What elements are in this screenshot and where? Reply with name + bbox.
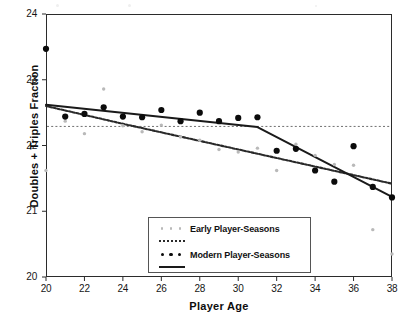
legend-line-early <box>156 235 305 248</box>
y-tick-label: 24 <box>15 8 37 19</box>
y-tick-label: 20 <box>15 271 37 282</box>
y-axis-title: Doubles + Triples Fraction <box>28 36 40 236</box>
x-tick-label: 28 <box>189 283 211 294</box>
legend-label-modern: Modern Player-Seasons <box>190 250 290 260</box>
legend-entry-modern: Modern Player-Seasons <box>156 248 305 261</box>
legend-entry-early: Early Player-Seasons <box>156 222 305 235</box>
legend-marker-early <box>156 223 190 234</box>
legend-label-early: Early Player-Seasons <box>190 224 280 234</box>
x-tick-label: 30 <box>227 283 249 294</box>
legend-marker-modern <box>156 249 190 260</box>
x-tick-label: 38 <box>381 283 403 294</box>
x-tick-label: 32 <box>266 283 288 294</box>
legend-line-sample-early <box>156 236 190 247</box>
x-tick-label: 36 <box>343 283 365 294</box>
chart-figure: 2021222324 20222426283032343638 Doubles … <box>0 0 407 323</box>
x-axis-title: Player Age <box>46 300 392 312</box>
legend-line-sample-modern <box>156 262 190 273</box>
x-tick-label: 20 <box>35 283 57 294</box>
x-tick-label: 26 <box>150 283 172 294</box>
legend-line-modern <box>156 261 305 274</box>
plot-canvas <box>0 0 407 323</box>
x-tick-label: 22 <box>73 283 95 294</box>
chart-legend: Early Player-Seasons Modern Player-Seaso… <box>148 217 311 273</box>
x-tick-label: 24 <box>112 283 134 294</box>
x-tick-label: 34 <box>304 283 326 294</box>
